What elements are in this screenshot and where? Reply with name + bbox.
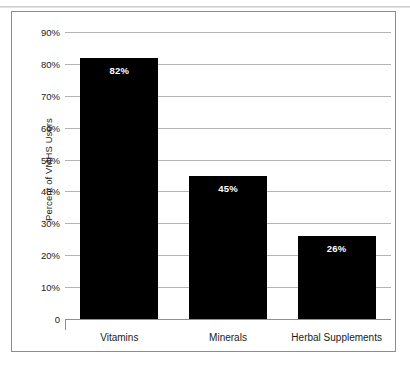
category-axis-tick: [65, 319, 66, 330]
bar-value-label: 45%: [189, 183, 267, 194]
chart-figure-frame: Percent of VMHS Users 010%20%30%40%50%60…: [11, 11, 396, 352]
x-axis-category-label: Herbal Supplements: [291, 332, 382, 343]
y-axis-tick-label: 50%: [41, 154, 60, 165]
x-axis-category-label: Minerals: [209, 332, 247, 343]
x-axis-category-label: Vitamins: [100, 332, 138, 343]
y-axis-tick-label: 10%: [41, 282, 60, 293]
y-axis-tick-label: 40%: [41, 186, 60, 197]
y-axis-tick-label: 0: [55, 314, 60, 325]
bar-value-label: 82%: [80, 65, 158, 76]
y-axis-tick-label: 70%: [41, 90, 60, 101]
bar: 26%: [298, 236, 376, 319]
bar-value-label: 26%: [298, 243, 376, 254]
gridline: [65, 32, 391, 33]
y-axis-tick-label: 90%: [41, 27, 60, 38]
y-axis-tick-label: 80%: [41, 58, 60, 69]
y-axis-tick-label: 30%: [41, 218, 60, 229]
y-axis-tick-label: 20%: [41, 250, 60, 261]
bar: 45%: [189, 176, 267, 320]
bar: 82%: [80, 58, 158, 319]
axis-baseline: [65, 319, 391, 320]
y-axis-tick-label: 60%: [41, 122, 60, 133]
plot-area: 010%20%30%40%50%60%70%80%90% 82%45%26% V…: [65, 32, 391, 319]
scan-artifact-line-secondary: [0, 7, 410, 8]
